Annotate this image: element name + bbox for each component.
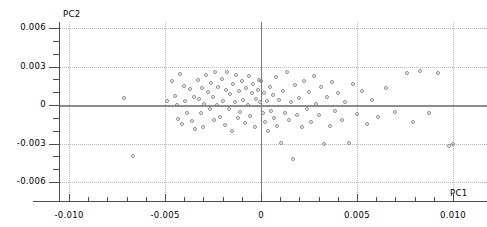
data-point — [268, 85, 272, 89]
x-axis-tick-major — [357, 194, 358, 202]
data-point — [122, 96, 126, 100]
data-point — [236, 116, 240, 120]
y-axis-tick-label: 0.006 — [20, 22, 46, 32]
data-point — [224, 88, 228, 92]
y-axis-tick-minor — [53, 169, 59, 170]
data-point — [314, 102, 318, 106]
x-axis-tick-minor — [299, 197, 300, 202]
data-point — [234, 73, 238, 77]
x-axis-tick-label: -0.010 — [39, 210, 99, 220]
data-point — [269, 109, 273, 113]
data-point — [333, 109, 337, 113]
data-point — [370, 98, 374, 102]
y-axis-tick-label: -0.006 — [17, 176, 46, 186]
data-point — [272, 116, 276, 120]
data-point — [211, 95, 215, 99]
data-point — [204, 73, 208, 77]
x-axis-tick-major — [453, 194, 454, 202]
y-axis-tick-minor — [53, 41, 59, 42]
y-axis-tick-major — [49, 28, 59, 29]
data-point — [343, 100, 347, 104]
data-point — [309, 120, 313, 124]
data-point — [336, 91, 340, 95]
data-point — [411, 120, 415, 124]
x-axis-tick-label: 0 — [231, 210, 291, 220]
gridline-vertical — [69, 22, 70, 201]
data-point — [279, 141, 283, 145]
data-point — [351, 82, 355, 86]
data-point — [365, 122, 369, 126]
data-point — [206, 90, 210, 94]
y-axis-tick-major — [49, 105, 59, 106]
data-point — [201, 125, 205, 129]
x-axis-tick-minor — [146, 197, 147, 202]
data-point — [283, 111, 287, 115]
y-axis-tick-minor — [53, 79, 59, 80]
plot-area — [60, 22, 487, 201]
scatter-plot-figure: PC2 PC1 0.0060.0030-0.003-0.006-0.010-0.… — [0, 0, 487, 227]
data-point — [244, 86, 248, 90]
data-point — [277, 98, 281, 102]
data-point — [183, 99, 187, 103]
y-axis-tick-label: -0.003 — [17, 138, 46, 148]
x-axis-spine — [33, 201, 487, 202]
data-point — [289, 100, 293, 104]
data-point — [243, 121, 247, 125]
data-point — [317, 113, 321, 117]
data-point — [165, 99, 169, 103]
data-point — [427, 111, 431, 115]
data-point — [360, 89, 364, 93]
data-point — [233, 100, 237, 104]
data-point — [192, 95, 196, 99]
data-point — [312, 74, 316, 78]
y-axis-tick-major — [49, 182, 59, 183]
x-axis-tick-major — [261, 194, 262, 202]
data-point — [188, 87, 192, 91]
data-point — [215, 103, 219, 107]
y-axis-tick-label: 0 — [40, 99, 46, 109]
data-point — [285, 70, 289, 74]
data-point — [247, 74, 251, 78]
data-point — [436, 71, 440, 75]
x-axis-tick-minor — [88, 197, 89, 202]
y-axis-tick-label: 0.003 — [20, 61, 46, 71]
data-point — [305, 107, 309, 111]
data-point — [261, 111, 265, 115]
y-axis-tick-minor — [53, 118, 59, 119]
x-axis-tick-minor — [127, 197, 128, 202]
data-point — [199, 111, 203, 115]
gridline-horizontal — [60, 182, 487, 183]
data-point — [271, 93, 275, 97]
data-point — [241, 98, 245, 102]
data-point — [220, 77, 224, 81]
x-axis-tick-minor — [376, 197, 377, 202]
x-axis-tick-minor — [434, 197, 435, 202]
data-point — [251, 82, 255, 86]
data-point — [265, 99, 269, 103]
data-point — [228, 92, 232, 96]
x-axis-tick-major — [165, 194, 166, 202]
data-point — [293, 83, 297, 87]
data-point — [193, 127, 197, 131]
x-axis-tick-label: 0.005 — [327, 210, 387, 220]
x-axis-tick-minor — [203, 197, 204, 202]
data-point — [170, 79, 174, 83]
data-point — [275, 124, 279, 128]
data-point — [418, 69, 422, 73]
data-point — [230, 129, 234, 133]
data-point — [227, 107, 231, 111]
data-point — [208, 107, 212, 111]
data-point — [221, 99, 225, 103]
data-point — [262, 91, 266, 95]
data-point — [131, 154, 135, 158]
data-point — [185, 111, 189, 115]
data-point — [176, 117, 180, 121]
data-point — [297, 96, 301, 100]
data-point — [307, 90, 311, 94]
data-point — [287, 118, 291, 122]
y-axis-tick-major — [49, 67, 59, 68]
data-point — [319, 85, 323, 89]
data-point — [340, 118, 344, 122]
data-point — [376, 115, 380, 119]
x-axis-tick-minor — [184, 197, 185, 202]
